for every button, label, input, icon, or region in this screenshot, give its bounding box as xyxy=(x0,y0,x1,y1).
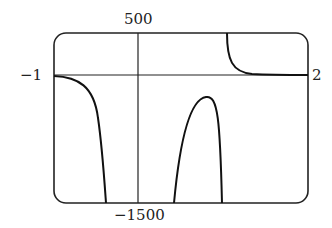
y-max-label: 500 xyxy=(124,12,153,27)
x-min-label: −1 xyxy=(20,68,42,83)
curve-left-branch xyxy=(54,76,106,203)
y-min-label: −1500 xyxy=(114,208,165,223)
graph-plot xyxy=(0,0,332,228)
curve-upper-right-branch xyxy=(227,33,308,75)
x-max-label: 2 xyxy=(312,68,322,83)
curve-middle-arch xyxy=(174,97,222,203)
viewing-window-frame xyxy=(54,33,308,203)
